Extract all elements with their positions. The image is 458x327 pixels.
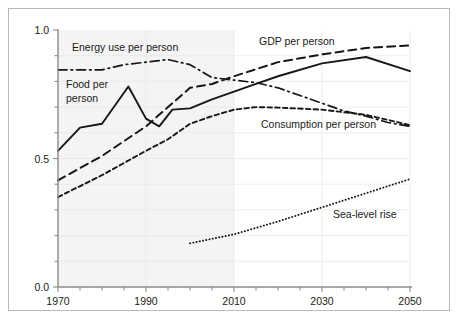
figure-root: 1.00.50.019701990201020302050 Energy use… <box>0 0 458 327</box>
x-tick-label: 2030 <box>310 295 334 307</box>
y-tick-label: 0.0 <box>34 281 49 293</box>
y-tick-label: 1.0 <box>34 24 49 36</box>
line-chart: 1.00.50.019701990201020302050 Energy use… <box>0 0 458 327</box>
x-tick-label: 2050 <box>398 295 422 307</box>
label-food-per-person-line2: person <box>66 92 98 104</box>
label-energy-use-per-person: Energy use per person <box>72 41 178 53</box>
label-consumption-per-person: Consumption per person <box>261 118 376 130</box>
label-gdp-per-person: GDP per person <box>259 35 335 47</box>
label-sea-level-rise: Sea-level rise <box>333 208 397 220</box>
label-food-per-person-line1: Food per <box>66 78 109 90</box>
y-tick-label: 0.5 <box>34 153 49 165</box>
x-tick-label: 1990 <box>134 295 158 307</box>
x-tick-label: 2010 <box>222 295 246 307</box>
x-tick-label: 1970 <box>46 295 70 307</box>
